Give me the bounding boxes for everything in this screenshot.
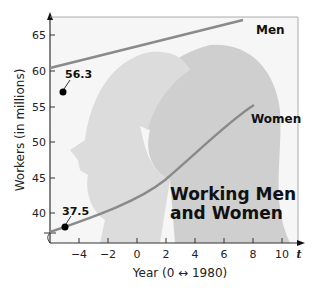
label-men: Men xyxy=(256,23,285,37)
svg-text:0: 0 xyxy=(134,248,141,261)
svg-text:4: 4 xyxy=(192,248,199,261)
chart-title-line1: Working Men xyxy=(170,184,296,204)
label-women: Women xyxy=(251,112,301,126)
svg-text:50: 50 xyxy=(32,136,46,149)
x-axis-arrow-icon xyxy=(297,240,305,246)
svg-text:−2: −2 xyxy=(100,248,116,261)
chart: 65 60 55 50 45 40 −4 −2 0 2 4 6 8 10 t 5… xyxy=(0,0,315,291)
svg-text:65: 65 xyxy=(32,29,46,42)
svg-text:10: 10 xyxy=(275,248,289,261)
svg-text:60: 60 xyxy=(32,65,46,78)
y-axis-label: Workers (in millions) xyxy=(13,69,27,192)
svg-text:−4: −4 xyxy=(71,248,87,261)
svg-text:40: 40 xyxy=(32,207,46,220)
point-men xyxy=(60,89,67,96)
point-women xyxy=(62,224,69,231)
svg-text:2: 2 xyxy=(163,248,170,261)
annotation-men: 56.3 xyxy=(65,68,92,81)
y-axis-arrow-icon xyxy=(47,12,53,20)
x-axis-label: Year (0 ↔ 1980) xyxy=(132,266,227,280)
annotation-women: 37.5 xyxy=(62,205,89,218)
chart-title-line2: and Women xyxy=(170,203,283,223)
svg-text:45: 45 xyxy=(32,172,46,185)
svg-text:6: 6 xyxy=(221,248,228,261)
svg-text:8: 8 xyxy=(250,248,257,261)
svg-text:t: t xyxy=(296,248,301,261)
chart-svg: 65 60 55 50 45 40 −4 −2 0 2 4 6 8 10 t 5… xyxy=(0,0,315,291)
svg-text:55: 55 xyxy=(32,101,46,114)
